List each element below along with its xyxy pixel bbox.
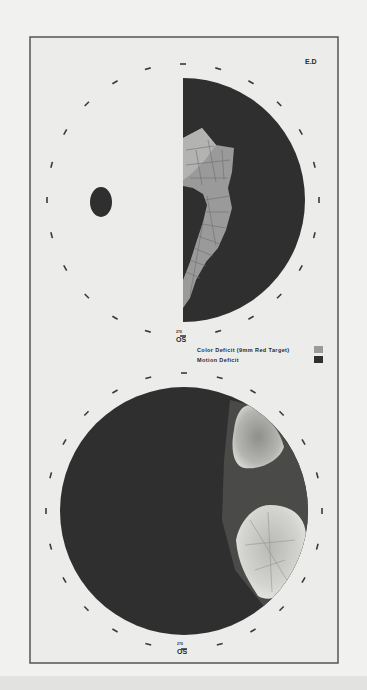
subject-label: E.D [305, 58, 317, 65]
legend-label-color-deficit: Color Deficit (9mm Red Target) [197, 347, 290, 353]
legend-swatch-color-deficit [314, 346, 323, 353]
top-plot-small-label: 270 [176, 330, 182, 334]
top-blind-spot [90, 187, 112, 217]
bottom-plot-small-label: 270 [177, 642, 183, 646]
figure: E.D 270 OS Color Deficit (9mm Red Target… [0, 0, 367, 690]
scan-edge-strip [0, 676, 367, 690]
legend-swatch-motion-deficit [314, 356, 323, 363]
top-plot-eye-label: OS [176, 336, 186, 343]
legend-label-motion-deficit: Motion Deficit [197, 357, 239, 363]
bottom-plot-eye-label: OS [177, 648, 187, 655]
